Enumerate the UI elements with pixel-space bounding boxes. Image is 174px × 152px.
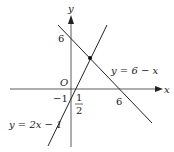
y-axis-label: y xyxy=(67,3,74,14)
half-numerator: 1 xyxy=(76,92,82,103)
x-axis-arrow-icon xyxy=(155,86,163,92)
intersection-point xyxy=(88,56,92,60)
x-axis-label: x xyxy=(164,84,170,95)
y-axis-arrow-icon xyxy=(68,15,74,24)
y-intercept-neg-one: −1 xyxy=(53,93,68,104)
label-y-6-minus-x: y = 6 − x xyxy=(110,65,158,76)
y-tick-six: 6 xyxy=(58,33,64,44)
x-tick-six: 6 xyxy=(116,96,122,107)
half-denominator: 2 xyxy=(76,105,82,116)
graph-canvas: y x O 6 6 −1 1 2 y = 6 − x y = 2x − 1 xyxy=(0,0,174,152)
origin-label: O xyxy=(60,77,68,88)
label-y-2x-minus-1: y = 2x − 1 xyxy=(8,119,63,130)
